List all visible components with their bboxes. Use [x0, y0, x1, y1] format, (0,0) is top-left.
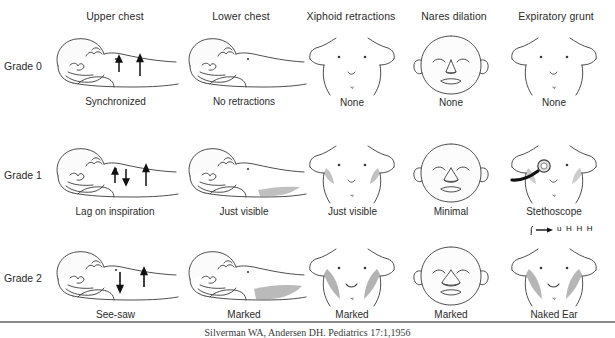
grunt-sound-label: u H H H	[557, 224, 594, 233]
cell-grade-1-xiphoid-retractions	[306, 140, 398, 206]
caption-grade-2-xiphoid-retractions: Marked	[306, 309, 398, 320]
column-header-nares-dilation: Nares dilation	[404, 10, 504, 22]
row-label-grade-0: Grade 0	[4, 60, 42, 72]
cell-grade-1-upper-chest	[48, 142, 183, 204]
caption-grade-2-lower-chest: Marked	[180, 309, 308, 320]
cell-grade-1-expiratory-grunt	[508, 140, 600, 206]
grunt-arrow-icon	[527, 224, 557, 238]
caption-grade-1-upper-chest: Lag on inspiration	[40, 206, 190, 217]
column-header-xiphoid-retractions: Xiphoid retractions	[296, 10, 406, 22]
caption-grade-1-xiphoid-retractions: Just visible	[300, 206, 405, 217]
cell-grade-2-xiphoid-retractions	[306, 243, 398, 309]
cell-grade-0-nares-dilation	[408, 32, 494, 98]
cell-grade-0-upper-chest	[48, 32, 183, 94]
caption-grade-2-expiratory-grunt: Naked Ear	[502, 309, 606, 320]
caption-grade-0-xiphoid-retractions: None	[306, 97, 398, 108]
caption-grade-1-lower-chest: Just visible	[180, 206, 308, 217]
cell-grade-2-nares-dilation	[408, 243, 494, 309]
caption-grade-0-lower-chest: No retractions	[180, 96, 308, 107]
stethoscope-icon	[512, 160, 550, 180]
row-label-grade-2: Grade 2	[4, 272, 42, 284]
footer-divider	[0, 321, 615, 323]
cell-grade-2-upper-chest	[48, 245, 183, 307]
cell-grade-1-lower-chest	[180, 142, 308, 204]
source-caption: Silverman WA, Andersen DH. Pediatrics 17…	[0, 327, 615, 338]
column-header-lower-chest: Lower chest	[186, 10, 296, 22]
cell-grade-2-expiratory-grunt	[508, 243, 600, 309]
caption-grade-2-upper-chest: See-saw	[48, 309, 183, 320]
caption-grade-1-expiratory-grunt: Stethoscope	[505, 206, 603, 217]
cell-grade-0-xiphoid-retractions	[306, 32, 398, 98]
row-label-grade-1: Grade 1	[4, 169, 42, 181]
caption-grade-0-nares-dilation: None	[408, 97, 494, 108]
cell-grade-0-expiratory-grunt	[508, 32, 600, 98]
cell-grade-2-lower-chest	[180, 245, 308, 307]
cell-grade-1-nares-dilation	[408, 140, 494, 206]
caption-grade-0-expiratory-grunt: None	[508, 97, 600, 108]
column-header-upper-chest: Upper chest	[55, 10, 175, 22]
cell-grade-0-lower-chest	[180, 32, 308, 94]
caption-grade-2-nares-dilation: Marked	[408, 309, 494, 320]
column-header-expiratory-grunt: Expiratory grunt	[500, 10, 612, 22]
caption-grade-1-nares-dilation: Minimal	[408, 206, 494, 217]
caption-grade-0-upper-chest: Synchronized	[48, 96, 183, 107]
